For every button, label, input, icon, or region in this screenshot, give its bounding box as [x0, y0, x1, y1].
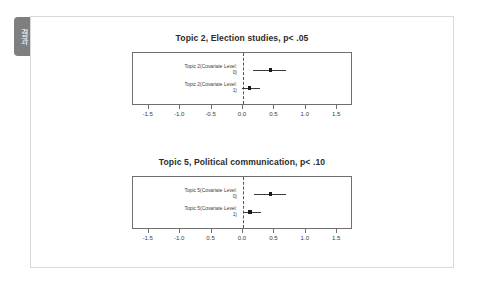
x-axis-tick-label: -1.0 [174, 234, 185, 241]
estimate-row-label-line2: 0) [87, 194, 237, 200]
estimate-point [269, 68, 272, 71]
estimate-row-label: Topic 2(Covariate Level:0) [87, 64, 237, 76]
plot-frame-topic-5: Topic 5(Covariate Level:0)Topic 5(Covari… [132, 176, 352, 229]
estimate-row-label-line2: 0) [87, 70, 237, 76]
x-axis-tick-label: 1.5 [332, 110, 340, 117]
x-axis-tick-label: -1.0 [174, 110, 185, 117]
x-axis-tick [148, 229, 149, 233]
estimate-point [248, 86, 251, 89]
estimate-row-label-line2: 1) [87, 212, 237, 218]
x-axis-tick [273, 105, 274, 109]
estimate-row-label: Topic 5(Covariate Level:1) [87, 206, 237, 218]
slide-canvas: Topic 2, Election studies, p< .05 Topic … [30, 16, 454, 268]
chart-panel-topic-2: Topic 2, Election studies, p< .05 Topic … [31, 33, 453, 123]
x-axis-tick-label: 0.0 [238, 234, 246, 241]
estimate-point [248, 210, 251, 213]
x-axis-tick-label: 0.5 [206, 234, 214, 241]
plot-frame-topic-2: Topic 2(Covariate Level:0)Topic 2(Covari… [132, 52, 352, 105]
confidence-interval-bar [243, 212, 261, 213]
x-axis-tick [242, 229, 243, 233]
x-axis-tick [273, 229, 274, 233]
chart-title-topic-5: Topic 5, Political communication, p< .10 [31, 157, 453, 167]
chart-panel-topic-5: Topic 5, Political communication, p< .10… [31, 157, 453, 247]
x-axis-tick [179, 229, 180, 233]
x-axis-tick [336, 105, 337, 109]
x-axis-tick-label: 0.5 [269, 234, 277, 241]
chart-title-topic-2: Topic 2, Election studies, p< .05 [31, 33, 453, 43]
x-axis-tick-label: 1.0 [301, 110, 309, 117]
estimate-row-label: Topic 5(Covariate Level:0) [87, 188, 237, 200]
x-axis-tick-label: -0.5 [205, 110, 216, 117]
x-axis-tick-label: 0.0 [238, 110, 246, 117]
x-axis-tick [211, 229, 212, 233]
x-axis-tick [179, 105, 180, 109]
x-axis-tick-label: 1.0 [301, 234, 309, 241]
x-axis-tick-label: 0.5 [269, 110, 277, 117]
x-axis-tick-label: -1.5 [142, 110, 153, 117]
x-axis-tick [211, 105, 212, 109]
section-tab-label: 결과 [19, 29, 27, 45]
x-axis-tick [305, 105, 306, 109]
x-axis-tick-label: -1.5 [142, 234, 153, 241]
plot-wrap-topic-5: Topic 5(Covariate Level:0)Topic 5(Covari… [132, 176, 352, 247]
plot-wrap-topic-2: Topic 2(Covariate Level:0)Topic 2(Covari… [132, 52, 352, 123]
estimate-row-label-line2: 1) [87, 88, 237, 94]
x-axis-tick [148, 105, 149, 109]
x-axis-topic-2: -1.5-1.0-0.50.00.51.01.5 [132, 105, 352, 123]
x-axis-topic-5: -1.5-1.00.50.00.51.01.5 [132, 229, 352, 247]
x-axis-tick-label: 1.5 [332, 234, 340, 241]
x-axis-tick [336, 229, 337, 233]
estimate-point [269, 192, 272, 195]
zero-reference-line-topic-2 [243, 53, 244, 104]
estimate-row-label: Topic 2(Covariate Level:1) [87, 82, 237, 94]
x-axis-tick [305, 229, 306, 233]
x-axis-tick [242, 105, 243, 109]
zero-reference-line-topic-5 [243, 177, 244, 228]
